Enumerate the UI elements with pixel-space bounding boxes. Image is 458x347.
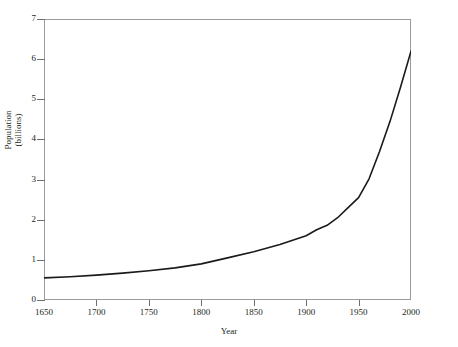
y-tick-mark: [37, 19, 45, 20]
x-tick-mark: [96, 300, 97, 306]
x-tick-label: 1750: [129, 307, 169, 317]
x-axis-title: Year: [0, 326, 458, 336]
y-tick-label: 1: [10, 255, 36, 264]
y-tick-label: 6: [10, 54, 36, 63]
y-axis-title-line-1: Population: [3, 80, 13, 180]
y-tick-mark: [37, 180, 45, 181]
y-tick-mark: [37, 220, 45, 221]
y-tick-label: 0: [10, 295, 36, 304]
population-curve-svg: [44, 19, 411, 300]
x-tick-label: 2000: [391, 307, 431, 317]
x-tick-mark: [359, 300, 360, 306]
x-tick-mark: [306, 300, 307, 306]
x-tick-mark: [149, 300, 150, 306]
y-tick-mark: [37, 139, 45, 140]
y-tick-label: 2: [10, 215, 36, 224]
x-tick-label: 1950: [339, 307, 379, 317]
y-tick-label: 7: [10, 14, 36, 23]
y-axis-title-line-2: (billions): [13, 80, 23, 180]
y-tick-mark: [37, 260, 45, 261]
x-tick-mark: [201, 300, 202, 306]
population-curve: [44, 51, 411, 278]
y-tick-mark: [37, 59, 45, 60]
y-tick-mark: [37, 300, 45, 301]
x-tick-mark: [254, 300, 255, 306]
x-tick-label: 1900: [286, 307, 326, 317]
x-tick-label: 1650: [24, 307, 64, 317]
x-tick-label: 1800: [181, 307, 221, 317]
x-tick-label: 1700: [76, 307, 116, 317]
y-axis-title: Population (billions): [3, 80, 23, 180]
population-growth-chart: 01234567 1650170017501800185019001950200…: [0, 0, 458, 347]
x-tick-label: 1850: [234, 307, 274, 317]
y-tick-mark: [37, 99, 45, 100]
